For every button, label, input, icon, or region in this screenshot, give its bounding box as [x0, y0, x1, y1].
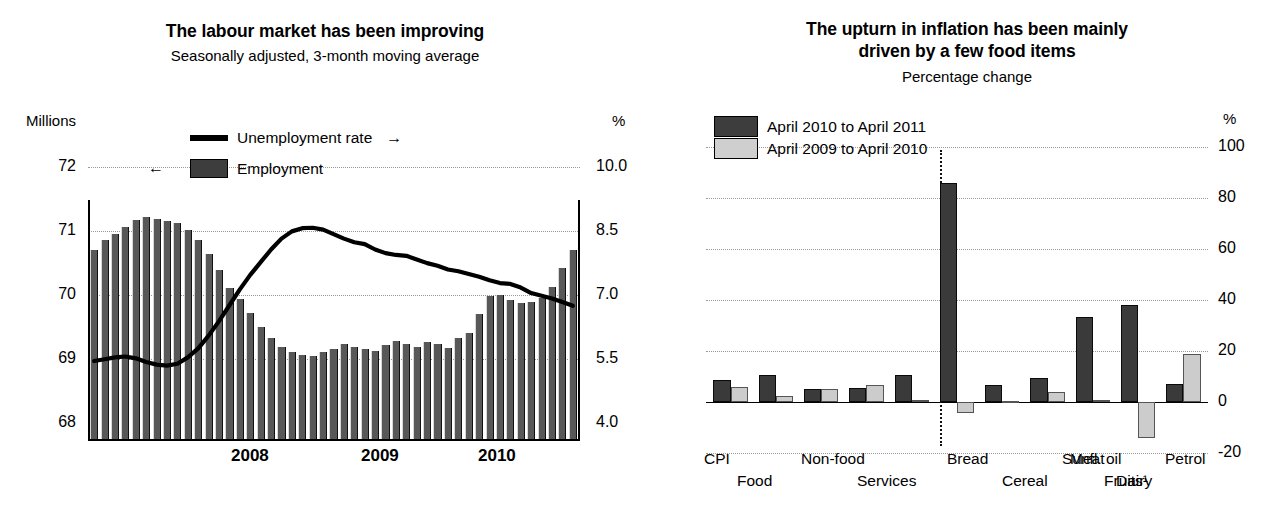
bar-light-5	[957, 402, 974, 413]
bar-dark-6	[985, 385, 1002, 402]
bar-light-2	[821, 389, 838, 402]
bar-light-10	[1183, 354, 1200, 402]
bar-dark-9	[1121, 305, 1138, 402]
xcat-cereal: Cereal	[1002, 472, 1048, 490]
xtick-2010: 2010	[478, 446, 516, 466]
bar-light-7	[1048, 392, 1065, 402]
xtick-2008: 2008	[231, 446, 269, 466]
bar-dark-1	[759, 375, 776, 402]
inflation-bars	[650, 0, 1284, 510]
bar-dark-4	[895, 375, 912, 402]
xcat-bread: Bread	[947, 450, 988, 468]
bar-light-4	[912, 400, 929, 402]
xcat-sunflower-oil: Sunfl. oil	[1062, 450, 1121, 468]
bar-light-1	[776, 396, 793, 402]
xcat-fruits: Fruits¹	[1104, 472, 1148, 490]
unemployment-line-path	[94, 228, 573, 366]
bar-light-9	[1138, 402, 1155, 438]
xcat-food: Food	[737, 472, 772, 490]
xcat-cpi: CPI	[704, 450, 730, 468]
xcat-petrol: Petrol	[1165, 450, 1206, 468]
bar-dark-5	[940, 183, 957, 402]
xcat-services: Services	[857, 472, 916, 490]
xcat-non-food: Non-food	[801, 450, 865, 468]
bar-dark-0	[713, 380, 730, 402]
bar-dark-2	[804, 389, 821, 402]
unemployment-rate-line	[0, 0, 650, 510]
bar-dark-7	[1030, 378, 1047, 402]
labour-market-chart-panel: The labour market has been improving Sea…	[0, 0, 650, 510]
bar-dark-3	[849, 388, 866, 402]
bar-dark-10	[1166, 384, 1183, 402]
bar-light-3	[866, 385, 883, 402]
bar-light-6	[1002, 401, 1019, 403]
inflation-chart-panel: The upturn in inflation has been mainly …	[650, 0, 1284, 510]
xtick-2009: 2009	[361, 446, 399, 466]
bar-dark-8	[1076, 317, 1093, 402]
bar-light-0	[731, 387, 748, 402]
bar-light-8	[1093, 400, 1110, 402]
